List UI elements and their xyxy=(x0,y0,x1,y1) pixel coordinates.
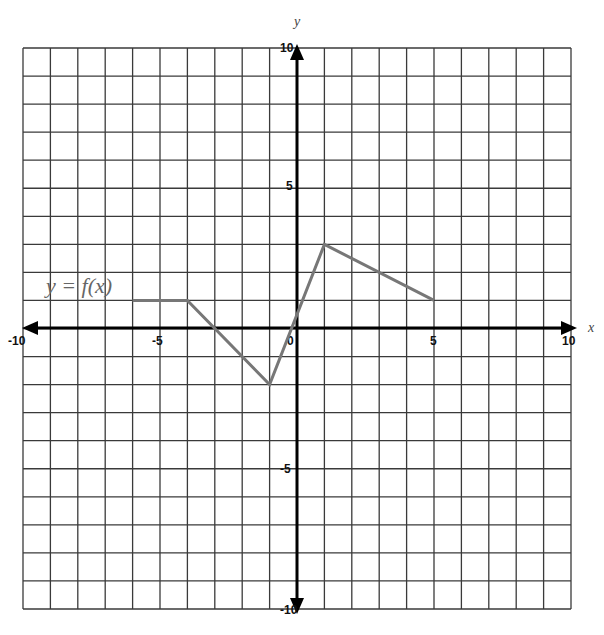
y-tick-label: -10 xyxy=(280,603,298,617)
x-axis-right-arrow-icon xyxy=(561,321,577,335)
y-axis-label: y xyxy=(292,14,301,29)
function-graph xyxy=(133,244,434,384)
function-label: y = f(x) xyxy=(44,273,112,298)
y-tick-label: 10 xyxy=(280,41,294,55)
y-tick-label: -5 xyxy=(280,462,291,476)
y-tick-label: 5 xyxy=(286,179,293,193)
x-axis-label: x xyxy=(587,320,595,335)
x-tick-label: 10 xyxy=(562,334,576,348)
x-tick-label: -10 xyxy=(8,334,26,348)
coordinate-plane: y x -10 -5 0 5 10 10 5 -5 -10 y = f(x) xyxy=(0,0,604,635)
x-tick-label: 5 xyxy=(430,334,437,348)
x-tick-label: -5 xyxy=(152,334,163,348)
x-axis-left-arrow-icon xyxy=(22,321,38,335)
